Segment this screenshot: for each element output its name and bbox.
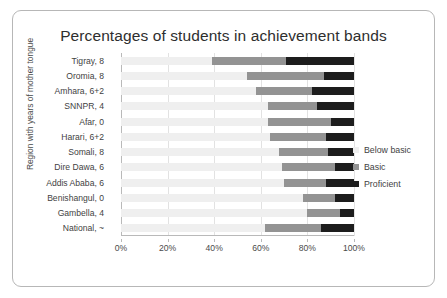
x-tick-label: 60% xyxy=(252,243,269,253)
legend-swatch-icon xyxy=(353,164,359,170)
stacked-bar xyxy=(121,163,354,171)
bar-segment-proficient xyxy=(340,209,354,217)
legend-item[interactable]: Below basic xyxy=(353,141,435,158)
bar-segment-below-basic xyxy=(121,179,284,187)
bar-row xyxy=(121,129,354,144)
bar-row xyxy=(121,68,354,83)
bar-segment-proficient xyxy=(286,57,354,65)
y-axis-category-label: Amhara, 6+2 xyxy=(31,84,109,99)
legend-label: Proficient xyxy=(364,179,401,189)
bar-row xyxy=(121,84,354,99)
x-tick-mark xyxy=(168,239,169,242)
bar-row xyxy=(121,221,354,236)
y-axis-category-label: Dire Dawa, 6 xyxy=(31,160,109,175)
x-tick-mark xyxy=(307,239,308,242)
x-tick-label: 100% xyxy=(343,243,365,253)
bar-segment-below-basic xyxy=(121,72,247,80)
bar-segment-basic xyxy=(284,179,326,187)
plot-area xyxy=(121,53,354,236)
y-axis-category-label: Addis Ababa, 6 xyxy=(31,175,109,190)
legend-item[interactable]: Basic xyxy=(353,158,435,175)
bar-segment-below-basic xyxy=(121,133,270,141)
bar-segment-basic xyxy=(282,163,336,171)
x-tick-label: 80% xyxy=(299,243,316,253)
stacked-bar xyxy=(121,57,354,65)
y-axis-category-label: Harari, 6+2 xyxy=(31,129,109,144)
x-tick-mark xyxy=(214,239,215,242)
x-tick-mark xyxy=(354,239,355,242)
y-axis-category-label: Somali, 8 xyxy=(31,145,109,160)
bar-segment-below-basic xyxy=(121,194,303,202)
bar-segment-proficient xyxy=(326,133,354,141)
stacked-bar xyxy=(121,179,354,187)
bar-segment-basic xyxy=(307,209,340,217)
bar-segment-below-basic xyxy=(121,148,279,156)
bar-segment-below-basic xyxy=(121,224,265,232)
bar-series-group xyxy=(121,53,354,236)
bar-row xyxy=(121,175,354,190)
y-axis-category-label: Afar, 0 xyxy=(31,114,109,129)
y-axis-category-label: Gambella, 4 xyxy=(31,206,109,221)
stacked-bar xyxy=(121,148,354,156)
bar-row xyxy=(121,145,354,160)
bar-segment-basic xyxy=(303,194,336,202)
bar-segment-basic xyxy=(265,224,321,232)
stacked-bar xyxy=(121,102,354,110)
bar-segment-proficient xyxy=(326,179,354,187)
bar-segment-below-basic xyxy=(121,163,282,171)
bar-segment-below-basic xyxy=(121,209,307,217)
y-axis-category-label: National, ~ xyxy=(31,221,109,236)
x-tick-label: 40% xyxy=(206,243,223,253)
bar-segment-below-basic xyxy=(121,87,256,95)
bar-segment-proficient xyxy=(321,224,354,232)
bar-segment-basic xyxy=(256,87,312,95)
bar-segment-basic xyxy=(270,133,326,141)
bar-segment-basic xyxy=(247,72,324,80)
bar-row xyxy=(121,53,354,68)
stacked-bar xyxy=(121,209,354,217)
stacked-bar xyxy=(121,87,354,95)
bar-segment-basic xyxy=(268,118,331,126)
bar-segment-proficient xyxy=(312,87,354,95)
y-axis-category-label: Tigray, 8 xyxy=(31,53,109,68)
chart-legend: Below basicBasicProficient xyxy=(353,141,435,192)
bar-row xyxy=(121,114,354,129)
bar-segment-basic xyxy=(212,57,287,65)
bar-segment-proficient xyxy=(335,163,354,171)
bar-segment-proficient xyxy=(324,72,354,80)
y-axis-category-label: Oromia, 8 xyxy=(31,68,109,83)
bar-row xyxy=(121,206,354,221)
x-tick-mark xyxy=(121,239,122,242)
bar-segment-proficient xyxy=(335,194,354,202)
bar-row xyxy=(121,190,354,205)
bar-row xyxy=(121,160,354,175)
bar-segment-below-basic xyxy=(121,57,212,65)
y-axis-category-labels: Tigray, 8Oromia, 8Amhara, 6+2SNNPR, 4Afa… xyxy=(31,53,109,236)
x-tick-mark xyxy=(261,239,262,242)
x-tick-label: 20% xyxy=(159,243,176,253)
bar-segment-below-basic xyxy=(121,102,268,110)
stacked-bar xyxy=(121,224,354,232)
y-axis-category-label: SNNPR, 4 xyxy=(31,99,109,114)
legend-swatch-icon xyxy=(353,181,359,187)
stacked-bar xyxy=(121,72,354,80)
chart-card: Percentages of students in achievement b… xyxy=(12,10,435,287)
bar-segment-below-basic xyxy=(121,118,268,126)
bar-row xyxy=(121,99,354,114)
chart-title: Percentages of students in achievement b… xyxy=(13,27,434,45)
bar-segment-proficient xyxy=(317,102,354,110)
stacked-bar xyxy=(121,133,354,141)
stacked-bar xyxy=(121,118,354,126)
y-axis-category-label: Benishangul, 0 xyxy=(31,190,109,205)
bar-segment-basic xyxy=(268,102,317,110)
x-axis-ticks: 0%20%40%60%80%100% xyxy=(121,239,354,255)
legend-label: Below basic xyxy=(364,145,411,155)
legend-label: Basic xyxy=(364,162,386,172)
bar-segment-basic xyxy=(279,148,328,156)
legend-swatch-icon xyxy=(353,147,359,153)
stacked-bar xyxy=(121,194,354,202)
bar-segment-proficient xyxy=(328,148,354,156)
x-tick-label: 0% xyxy=(115,243,127,253)
bar-segment-proficient xyxy=(331,118,354,126)
legend-item[interactable]: Proficient xyxy=(353,175,435,192)
